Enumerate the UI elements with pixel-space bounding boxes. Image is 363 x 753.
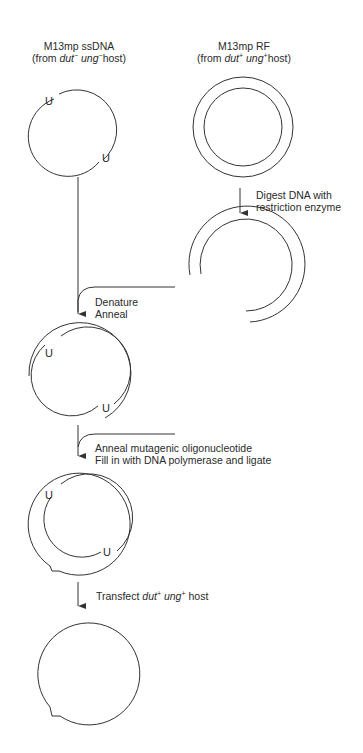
cut-rf-outer-arc	[189, 206, 305, 322]
rf-inner-circle	[204, 88, 282, 166]
heteroduplex-inner-2	[61, 474, 133, 551]
uracil-marker: U	[103, 546, 111, 558]
heteroduplex-inner-1	[44, 497, 101, 557]
gapped-duplex-inner-1	[31, 345, 98, 416]
uracil-marker: U	[45, 489, 53, 501]
rf-source: (from dut+ ung+host)	[185, 52, 303, 64]
uracil-marker: U	[45, 347, 53, 359]
heteroduplex-outer	[28, 473, 130, 575]
final-circle	[38, 623, 140, 725]
denature-anneal-label: Denature Anneal	[95, 296, 138, 320]
uracil-marker: U	[102, 402, 110, 414]
ssdna-circle	[28, 99, 99, 176]
rf-label: M13mp RF (from dut+ ung+host)	[185, 40, 303, 64]
diagram-canvas	[0, 0, 363, 753]
cut-rf-inner-arc	[200, 219, 292, 311]
digest-label: Digest DNA with restriction enzyme	[256, 189, 341, 213]
ssdna-label: M13mp ssDNA (from dut− ung−host)	[20, 40, 138, 64]
anneal-oligo-label: Anneal mutagenic oligonucleotide Fill in…	[95, 442, 271, 466]
rf-outer-circle	[193, 77, 293, 177]
rf-title: M13mp RF	[185, 40, 303, 52]
ssdna-circle-arc2	[59, 90, 117, 160]
ssdna-source: (from dut− ung−host)	[20, 52, 138, 64]
transfect-label: Transfect dut+ ung+ host	[96, 590, 208, 602]
uracil-marker: U	[102, 152, 110, 164]
ssdna-title: M13mp ssDNA	[20, 40, 138, 52]
uracil-marker: U	[45, 95, 53, 107]
gapped-duplex-inner-2	[61, 327, 131, 404]
